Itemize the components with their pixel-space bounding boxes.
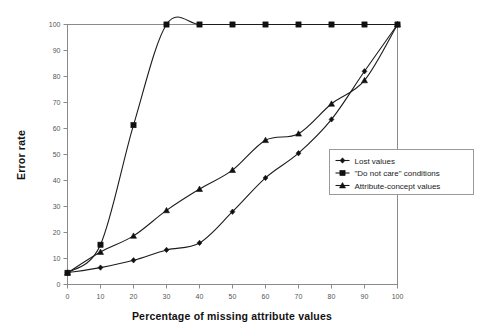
x-tick-label: 100	[392, 293, 404, 300]
legend-item-label: Attribute-concept values	[355, 182, 441, 191]
y-tick-label: 100	[49, 21, 61, 28]
x-tick-label: 70	[295, 293, 303, 300]
x-tick-label: 90	[361, 293, 369, 300]
x-tick-label: 30	[163, 293, 171, 300]
x-tick-label: 50	[229, 293, 237, 300]
x-tick-label: 60	[262, 293, 270, 300]
y-tick-label: 0	[57, 281, 61, 288]
data-marker-square	[362, 22, 367, 27]
chart-legend: Lost values"Do not care" conditionsAttri…	[330, 150, 474, 195]
data-marker-square	[164, 22, 169, 27]
y-tick-label: 90	[53, 47, 61, 54]
y-tick-label: 40	[53, 177, 61, 184]
data-marker-square	[263, 22, 268, 27]
error-rate-line-chart: 0102030405060708090100 01020304050607080…	[0, 0, 483, 327]
data-marker-square	[98, 242, 103, 247]
chart-figure: 0102030405060708090100 01020304050607080…	[0, 0, 483, 327]
data-marker-square	[329, 22, 334, 27]
x-tick-label: 10	[97, 293, 105, 300]
x-tick-label: 20	[130, 293, 138, 300]
x-axis-title: Percentage of missing attribute values	[132, 310, 332, 322]
y-tick-label: 80	[53, 73, 61, 80]
y-tick-label: 20	[53, 229, 61, 236]
legend-item-label: "Do not care" conditions	[355, 169, 440, 178]
data-marker-square	[296, 22, 301, 27]
data-marker-square	[230, 22, 235, 27]
y-tick-label: 30	[53, 203, 61, 210]
x-tick-label: 0	[66, 293, 70, 300]
y-tick-label: 10	[53, 255, 61, 262]
y-tick-label: 60	[53, 125, 61, 132]
x-tick-label: 80	[328, 293, 336, 300]
y-axis-title: Error rate	[15, 130, 27, 180]
data-marker-square	[340, 170, 345, 175]
data-marker-square	[131, 123, 136, 128]
y-tick-label: 50	[53, 151, 61, 158]
y-tick-label: 70	[53, 99, 61, 106]
data-marker-square	[197, 22, 202, 27]
legend-item-label: Lost values	[355, 157, 395, 166]
x-tick-label: 40	[196, 293, 204, 300]
